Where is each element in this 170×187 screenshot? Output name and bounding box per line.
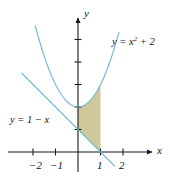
shaded-region — [78, 85, 101, 153]
x-tick-label-1: 1 — [97, 160, 103, 171]
x-tick-label-minus-2: −2 — [29, 160, 42, 171]
plot-canvas — [0, 0, 170, 187]
y-axis-name: y — [84, 8, 89, 19]
x-tick-label-2: 2 — [119, 160, 125, 171]
curve-label-line: y = 1 − x — [10, 115, 49, 126]
x-tick-label-minus-1: −1 — [50, 160, 63, 171]
curve-parabola — [35, 26, 119, 107]
math-figure: −2 −1 1 2 x y y = x2 + 2 y = 1 − x — [0, 0, 170, 187]
x-axis-name: x — [157, 145, 162, 156]
curve-label-parabola: y = x2 + 2 — [112, 37, 155, 48]
parabola-label-base: y = x — [112, 36, 134, 47]
parabola-label-tail: + 2 — [137, 36, 155, 47]
